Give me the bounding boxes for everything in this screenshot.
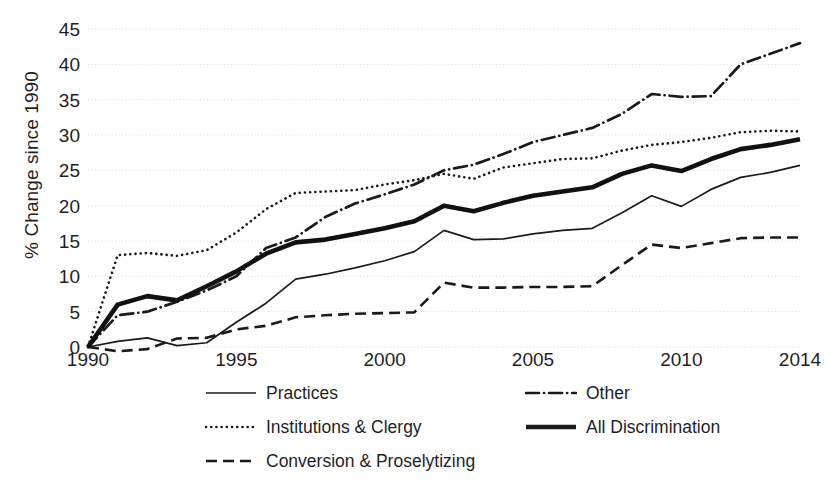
legend-item-practices[interactable]: Practices (205, 381, 338, 405)
legend-label: Practices (266, 383, 338, 404)
y-axis-tick-label: 40 (38, 55, 80, 74)
legend-label: Other (586, 383, 630, 404)
legend-swatch-icon (205, 454, 257, 468)
legend-label: Institutions & Clergy (266, 417, 422, 438)
chart-legend: PracticesOtherInstitutions & ClergyAll D… (205, 381, 805, 481)
series-line-practices (88, 165, 800, 347)
legend-swatch-icon (525, 386, 577, 400)
x-axis-tick-label: 2000 (345, 350, 425, 369)
chart-figure: % Change since 1990 051015202530354045 1… (0, 0, 829, 484)
legend-swatch-icon (525, 420, 577, 434)
x-axis-tick-label: 2005 (493, 350, 573, 369)
legend-item-all-discrimination[interactable]: All Discrimination (525, 415, 720, 439)
y-axis-tick-label: 15 (38, 232, 80, 251)
plot-svg (88, 29, 800, 347)
legend-item-other[interactable]: Other (525, 381, 630, 405)
y-axis-tick-label: 35 (38, 91, 80, 110)
x-axis-tick-label: 1990 (48, 350, 128, 369)
x-axis-tick-label: 2014 (760, 350, 829, 369)
gridlines (88, 29, 800, 347)
legend-swatch-icon (205, 420, 257, 434)
y-axis-tick-label: 30 (38, 126, 80, 145)
y-axis-tick-label: 25 (38, 161, 80, 180)
legend-item-institutions-clergy[interactable]: Institutions & Clergy (205, 415, 422, 439)
y-axis-tick-label: 20 (38, 197, 80, 216)
series-line-institutions-clergy (88, 131, 800, 347)
x-axis-tick-labels: 199019952000200520102014 (0, 350, 829, 380)
y-axis-tick-label: 10 (38, 267, 80, 286)
legend-item-conversion-proselytizing[interactable]: Conversion & Proselytizing (205, 449, 475, 473)
y-axis-tick-label: 45 (38, 20, 80, 39)
legend-swatch-icon (205, 386, 257, 400)
data-series-layer (88, 43, 800, 351)
legend-label: All Discrimination (586, 417, 720, 438)
legend-label: Conversion & Proselytizing (266, 451, 475, 472)
x-axis-tick-label: 1995 (196, 350, 276, 369)
plot-area (88, 29, 800, 347)
x-axis-tick-label: 2010 (641, 350, 721, 369)
y-axis-tick-labels: 051015202530354045 (28, 0, 80, 380)
series-line-other (88, 43, 800, 347)
y-axis-tick-label: 5 (38, 303, 80, 322)
